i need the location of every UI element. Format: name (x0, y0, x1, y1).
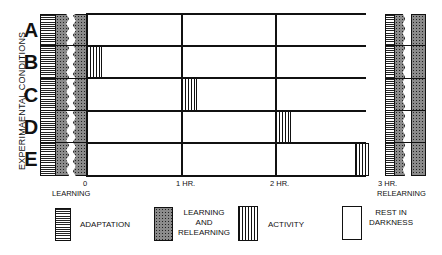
row-line (86, 175, 366, 177)
legend-label-learning: LEARNING AND RELEARNING (177, 208, 231, 238)
tick-1hr: 1 HR. (176, 179, 195, 188)
legend-line: LEARNING (177, 208, 231, 218)
row-line (86, 13, 366, 15)
left-row-dividers (40, 14, 88, 176)
timeline-grid (86, 13, 366, 177)
tick-3hr: 3 HR. (378, 179, 397, 188)
legend-line: DARKNESS (368, 218, 414, 228)
condition-label-d: D (21, 116, 41, 139)
row-line (86, 45, 366, 47)
legend-label-adaptation: ADAPTATION (80, 220, 130, 230)
tick-relearning: RELEARNING (377, 189, 426, 198)
legend-label-rest: REST IN DARKNESS (368, 208, 414, 228)
tick-2hr: 2 HR. (270, 179, 289, 188)
condition-label-b: B (21, 51, 41, 74)
legend: ADAPTATION LEARNING AND RELEARNING ACTIV… (0, 205, 442, 245)
row-line (86, 77, 366, 79)
legend-label-activity: ACTIVITY (268, 220, 304, 230)
condition-label-a: A (21, 19, 41, 42)
tick-0: 0 (83, 179, 87, 188)
legend-swatch-activity (238, 206, 258, 241)
legend-swatch-adaptation (55, 208, 71, 241)
legend-swatch-rest (342, 206, 362, 240)
condition-label-e: E (21, 148, 41, 171)
activity-block-c (181, 78, 197, 111)
row-line (86, 142, 366, 144)
legend-line: REST IN (368, 208, 414, 218)
legend-line: RELEARNING (177, 228, 231, 238)
tick-learning: LEARNING (52, 189, 90, 198)
activity-block-b (86, 46, 102, 78)
activity-block-e (355, 143, 369, 176)
hour-line-2 (275, 13, 277, 177)
legend-swatch-learning (154, 207, 173, 241)
condition-label-c: C (21, 84, 41, 107)
right-row-dividers (385, 14, 426, 176)
legend-line: AND (177, 218, 231, 228)
activity-block-d (275, 111, 291, 143)
row-line (86, 110, 366, 112)
hour-line-0 (86, 13, 88, 177)
